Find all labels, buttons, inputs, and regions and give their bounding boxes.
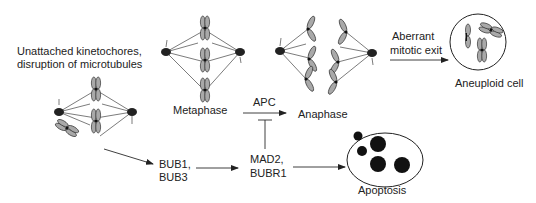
- chromatid-icon: [337, 18, 349, 45]
- chromatid-icon: [306, 15, 318, 42]
- apc-label: APC: [253, 96, 276, 108]
- apoptotic-body-icon: [370, 156, 386, 172]
- anaphase-label: Anaphase: [298, 108, 348, 120]
- trigger-label: Unattached kinetochores, disruption of m…: [17, 45, 143, 70]
- spindle-pole-icon: [275, 47, 285, 55]
- unattached-spindle: [54, 77, 137, 138]
- aneuploid-cell: [450, 14, 506, 70]
- apoptotic-body-icon: [370, 136, 386, 152]
- metaphase-label: Metaphase: [173, 104, 227, 116]
- apoptotic-body-icon: [354, 132, 363, 141]
- chromosome-icon: [91, 77, 100, 101]
- chromosome-icon: [91, 109, 100, 133]
- diagram-canvas: Unattached kinetochores, disruption of m…: [0, 0, 536, 203]
- apoptotic-body-icon: [394, 157, 410, 173]
- aberrant-label-line2: mitotic exit: [390, 44, 442, 56]
- mad-label-line2: BUBR1: [250, 167, 287, 179]
- svg-text:disruption of microtubules: disruption of microtubules: [17, 58, 143, 70]
- spindle-pole-icon: [54, 108, 64, 116]
- bub-label-line1: BUB1,: [159, 158, 191, 170]
- chromatid-icon: [327, 68, 339, 95]
- aneuploid-label: Aneuploid cell: [455, 77, 524, 89]
- svg-text:Unattached kinetochores,: Unattached kinetochores,: [17, 45, 142, 57]
- unattached-chromosome-icon: [54, 118, 79, 138]
- apoptosis-label: Apoptosis: [358, 184, 407, 196]
- aberrant-label-line1: Aberrant: [392, 30, 434, 42]
- chromosome-icon: [200, 48, 209, 72]
- spindle-pole-icon: [127, 108, 137, 116]
- chromosome-icon: [477, 38, 486, 62]
- apoptotic-cell: [347, 132, 423, 188]
- spindle-pole-icon: [161, 48, 171, 56]
- bub-label-line2: BUB3: [159, 171, 188, 183]
- chromosome-icon: [200, 78, 209, 102]
- spindle-pole-icon: [367, 49, 377, 57]
- checkpoint-arrow: [104, 149, 153, 164]
- apoptotic-body-icon: [357, 146, 367, 156]
- metaphase-spindle: [161, 16, 245, 102]
- mad-label-line1: MAD2,: [250, 153, 284, 165]
- anaphase-spindle: [275, 15, 377, 95]
- spindle-pole-icon: [235, 48, 245, 56]
- chromosome-icon: [200, 16, 209, 40]
